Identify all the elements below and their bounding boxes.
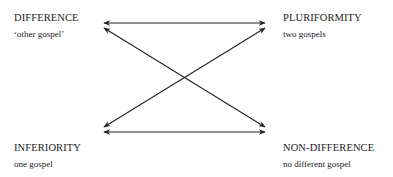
edges-layer <box>0 0 393 177</box>
